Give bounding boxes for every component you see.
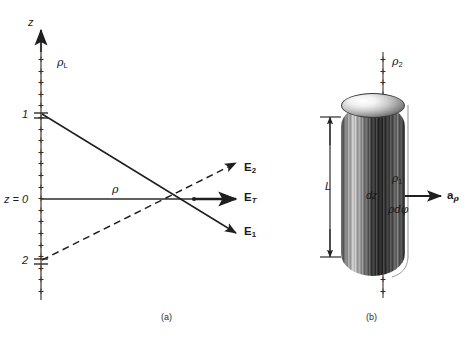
panel-b-element-width-label: ρdφ xyxy=(388,204,408,215)
panel-a-caption: (a) xyxy=(161,313,172,322)
figure-container: + + + + + + + + + + + + + + + + + + + + … xyxy=(0,0,475,338)
e-symbol: E xyxy=(244,161,252,173)
panel-b-length-label: L xyxy=(325,181,331,192)
plus-sign: + xyxy=(38,112,44,124)
plus-sign: + xyxy=(38,77,44,89)
plus-sign: + xyxy=(380,286,386,298)
panel-a-vector-label-e1: E1 xyxy=(244,226,256,239)
plus-sign: + xyxy=(380,274,386,286)
plus-sign: + xyxy=(38,228,44,240)
a-subscript: ρ xyxy=(453,194,458,203)
rho-subscript: 2 xyxy=(398,60,402,69)
plus-sign: + xyxy=(38,216,44,228)
plus-sign: + xyxy=(38,100,44,112)
panel-a-charge-density-label: ρL xyxy=(57,57,68,70)
plus-sign: + xyxy=(38,205,44,217)
plus-sign: + xyxy=(380,66,386,78)
panel-b-unit-vector-label: aρ xyxy=(447,190,459,203)
plus-sign: + xyxy=(38,240,44,252)
plus-sign: + xyxy=(38,182,44,194)
plus-sign: + xyxy=(38,193,44,205)
panel-a-vector-e1-line xyxy=(42,114,236,233)
e-symbol: E xyxy=(244,191,252,203)
plus-sign: + xyxy=(38,274,44,286)
plus-sign: + xyxy=(38,170,44,182)
plus-sign: + xyxy=(38,54,44,66)
panel-b-element-height-label: dz xyxy=(366,190,377,201)
plus-sign: + xyxy=(38,251,44,263)
plus-sign: + xyxy=(38,135,44,147)
plus-sign: + xyxy=(38,124,44,136)
plus-sign: + xyxy=(380,54,386,66)
panel-b-inner-density-label: ρ1 xyxy=(392,173,402,186)
plus-sign: + xyxy=(38,147,44,159)
rho-subscript: L xyxy=(63,61,67,70)
rho-dphi-symbol: ρdφ xyxy=(388,203,408,215)
e-subscript: T xyxy=(252,196,257,205)
panel-a-origin-label: z = 0 xyxy=(4,194,28,205)
plus-sign: + xyxy=(38,286,44,298)
panel-a-vector-label-e2: E2 xyxy=(244,162,256,175)
panel-a-tick-label-1: 1 xyxy=(22,109,28,120)
plus-sign: + xyxy=(380,77,386,89)
e-subscript: 2 xyxy=(252,166,256,175)
panel-a-vector-e2-line xyxy=(42,163,236,260)
cylinder-top-cap xyxy=(341,93,405,118)
rho-symbol: ρ xyxy=(112,183,118,196)
panel-a-vector-label-et: ET xyxy=(244,192,256,205)
panel-a-tick-label-2: 2 xyxy=(22,255,28,266)
panel-b-caption: (b) xyxy=(366,313,377,322)
panel-a-rho-axis-label: ρ xyxy=(112,184,118,195)
e-subscript: 1 xyxy=(252,230,256,239)
plus-sign: + xyxy=(38,158,44,170)
plus-sign: + xyxy=(38,263,44,275)
plus-sign: + xyxy=(38,66,44,78)
plus-sign: + xyxy=(38,89,44,101)
panel-b-outer-density-label: ρ2 xyxy=(392,56,403,69)
rho-subscript: 1 xyxy=(398,178,402,186)
panel-a-field-point xyxy=(192,197,196,201)
panel-a-z-axis-label: z xyxy=(28,17,34,28)
e-symbol: E xyxy=(244,225,252,237)
